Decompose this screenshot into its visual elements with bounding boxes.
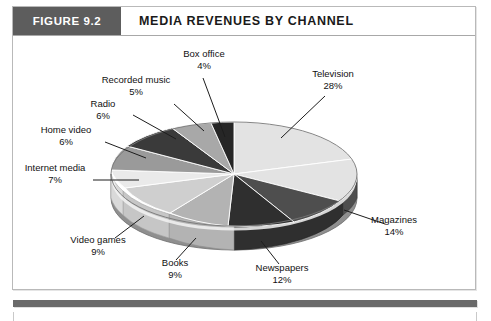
label-television: Television 28% [290,68,376,91]
figure-header: FIGURE 9.2 MEDIA REVENUES BY CHANNEL [13,7,475,36]
figure-frame: FIGURE 9.2 MEDIA REVENUES BY CHANNEL [12,6,476,290]
label-home-video: Home video 6% [25,124,107,147]
label-radio: Radio 6% [75,98,131,121]
label-video-games: Video games 9% [54,234,142,257]
label-newspapers: Newspapers 12% [241,262,323,285]
pie-top-face [111,122,357,226]
label-box-office: Box office 4% [161,48,247,71]
label-books: Books 9% [141,257,209,280]
pie-chart-area: Box office 4% Television 28% Recorded mu… [13,36,475,289]
page-bottom-edge [13,312,477,321]
bottom-divider-rule [13,300,477,307]
label-recorded-music: Recorded music 5% [86,74,186,97]
label-magazines: Magazines 14% [353,214,435,237]
figure-root: FIGURE 9.2 MEDIA REVENUES BY CHANNEL [0,0,491,321]
figure-number-tag: FIGURE 9.2 [13,7,121,35]
figure-title: MEDIA REVENUES BY CHANNEL [121,7,475,35]
label-internet-media: Internet media 7% [13,162,101,185]
